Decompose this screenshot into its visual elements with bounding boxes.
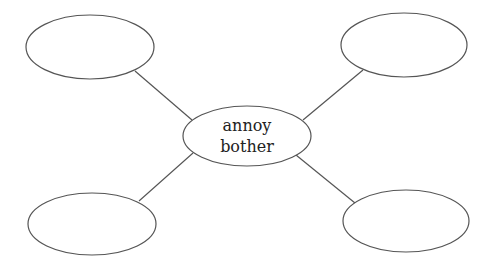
- outer-node-bottom-left[interactable]: [28, 193, 156, 255]
- center-node-line-2: bother: [220, 137, 274, 156]
- connector-top-left: [135, 71, 192, 120]
- connector-top-right: [303, 70, 363, 120]
- outer-node-bottom-right[interactable]: [343, 190, 469, 252]
- outer-node-top-right[interactable]: [341, 13, 467, 77]
- outer-node-top-left[interactable]: [26, 15, 154, 79]
- center-node-line-1: annoy: [223, 116, 272, 135]
- word-web-diagram: annoy bother: [0, 0, 493, 269]
- center-node: [183, 106, 311, 166]
- connector-bottom-left: [139, 153, 193, 201]
- connector-bottom-right: [296, 155, 355, 203]
